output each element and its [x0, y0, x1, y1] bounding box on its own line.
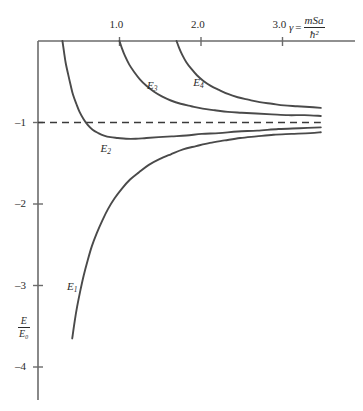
y-tick-label: –1 [15, 117, 26, 128]
y-tick-label: –4 [15, 361, 26, 372]
equals-sign: = [295, 22, 301, 33]
y-axis-title: E E₀ [18, 315, 30, 339]
y-tick-label: –2 [15, 198, 26, 209]
energy-denominator: E₀ [18, 328, 30, 340]
y-tick-label: –3 [15, 280, 26, 291]
gamma-denominator: ħ² [304, 28, 325, 41]
x-tick-label: 1.0 [110, 19, 124, 30]
x-axis-title: γ = mSa ħ² [289, 14, 325, 40]
gamma-numerator: mSa [304, 14, 325, 28]
curve-label-e1: E1 [67, 281, 77, 293]
gamma-fraction: mSa ħ² [304, 14, 325, 40]
curve-label-e3: E3 [147, 80, 157, 92]
curve-e4 [177, 41, 321, 108]
chart-plot-area [0, 0, 363, 411]
energy-level-chart: 1.02.03.0–1–2–3–4E1E2E3E4 γ = mSa ħ² E E… [0, 0, 363, 411]
x-tick-label: 3.0 [273, 19, 287, 30]
energy-ratio-fraction: E E₀ [18, 315, 30, 339]
axes-group [38, 41, 355, 400]
x-tick-label: 2.0 [191, 19, 205, 30]
energy-curves-group [62, 41, 320, 338]
curve-e1 [72, 132, 321, 338]
curve-e2 [62, 41, 320, 139]
curve-label-e2: E2 [100, 143, 110, 155]
energy-numerator: E [18, 315, 30, 328]
curve-label-e4: E4 [193, 77, 203, 89]
gamma-symbol: γ [289, 22, 293, 33]
